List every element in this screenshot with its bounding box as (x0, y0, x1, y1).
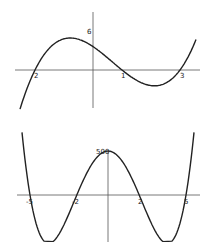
label-root-5: 5 (184, 198, 188, 206)
label-root-neg5: -5 (26, 198, 33, 206)
label-y-intercept: 500 (96, 148, 109, 156)
label-root-neg2: -2 (72, 198, 79, 206)
label-y-intercept: 6 (87, 28, 92, 36)
quartic-graph: -5 -2 2 5 500 (17, 132, 200, 242)
label-root-2: 2 (138, 198, 142, 206)
label-root-3: 3 (180, 72, 184, 80)
cubic-graph: 2 1 3 6 (15, 12, 200, 109)
cubic-curve (20, 38, 196, 109)
graphs-canvas: 2 1 3 6 -5 -2 2 5 500 (0, 0, 208, 242)
label-root-1: 1 (121, 72, 125, 80)
label-root-neg2: 2 (34, 72, 38, 80)
